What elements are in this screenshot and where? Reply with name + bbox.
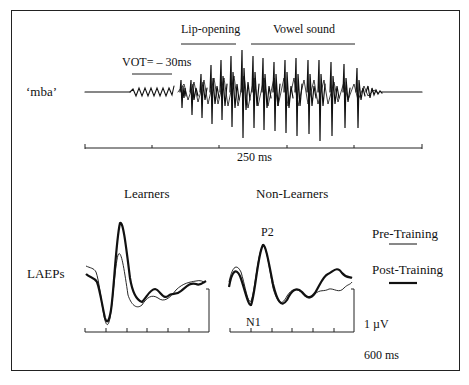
- non-learners-post-training-line: [229, 245, 352, 305]
- legend-swatches: [389, 244, 417, 283]
- non-learners-erp: [229, 245, 352, 305]
- speech-waveform: [85, 50, 422, 141]
- learners-erp: [86, 223, 206, 325]
- learners-post-training-line: [86, 223, 206, 322]
- waveform-time-axis: [85, 144, 422, 149]
- figure-graphics: [0, 0, 469, 385]
